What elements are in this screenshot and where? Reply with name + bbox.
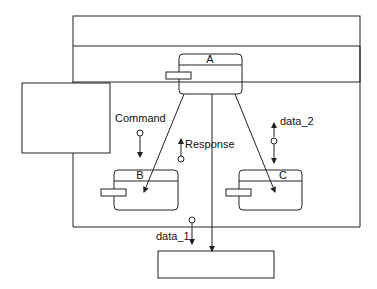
module-a[interactable]: A [166, 53, 242, 94]
command-label: Command [115, 112, 166, 124]
container-header [73, 16, 360, 82]
module-b-label: B [136, 169, 143, 181]
data-1-couple: data_1 [156, 217, 195, 244]
data-couple-icon [189, 217, 195, 223]
data-couple-icon [271, 138, 277, 144]
structure-chart: A B C Command Response data_2 [0, 0, 377, 289]
external-box-bottom [158, 251, 274, 278]
response-couple: Response [178, 138, 235, 162]
data-couple-icon [178, 156, 184, 162]
external-box-left [22, 83, 110, 153]
module-a-label: A [206, 53, 214, 65]
command-couple: Command [115, 112, 166, 157]
data-1-label: data_1 [156, 230, 190, 242]
data-couple-icon [137, 130, 143, 136]
module-b[interactable]: B [101, 169, 178, 210]
call-a-to-c-arrow [235, 94, 275, 192]
data-2-label: data_2 [280, 115, 314, 127]
response-label: Response [185, 138, 235, 150]
module-c-label: C [279, 169, 287, 181]
data-2-couple: data_2 [271, 115, 314, 163]
module-c[interactable]: C [226, 169, 302, 210]
container-body [73, 46, 360, 227]
